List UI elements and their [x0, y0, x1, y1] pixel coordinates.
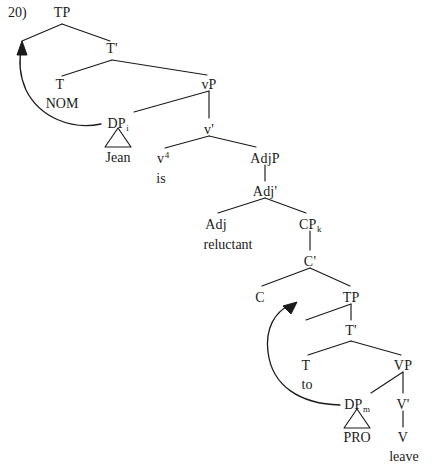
node-vbar: v': [204, 123, 214, 137]
node-label-text: v: [157, 151, 164, 166]
node-label-text: reluctant: [204, 237, 253, 252]
node-label-text: PRO: [343, 430, 370, 445]
node-label-text: CP: [299, 217, 317, 232]
tbar-embedded-to-vp: [351, 341, 401, 355]
node-label-text: is: [156, 171, 165, 186]
adjbar-to-cpk: [265, 198, 306, 213]
node-label-text: Jean: [106, 150, 131, 165]
node-label-text: T': [345, 323, 356, 338]
node-tp-root: TP: [54, 6, 71, 20]
node-label-text: leave: [389, 449, 419, 464]
vp-lower-to-dp: [371, 372, 403, 393]
tp-to-spec: [22, 24, 62, 41]
node-label-text: C: [255, 290, 265, 305]
node-c-head: C: [255, 291, 265, 305]
node-label-text: VP: [394, 358, 412, 373]
tp-embedded-to-spec: [306, 304, 351, 320]
node-label-text: C': [304, 254, 316, 269]
node-label-text: Adj': [253, 184, 277, 199]
node-tbar-main: T': [106, 42, 117, 56]
node-t-main-feature: NOM: [46, 97, 79, 111]
vbar-to-adjp: [209, 136, 256, 147]
tbar-to-t: [62, 60, 112, 76]
node-little-v-word: is: [156, 172, 165, 186]
node-adjp: AdjP: [250, 152, 280, 166]
node-dp-m: DPm: [344, 398, 370, 412]
node-label-text: DP: [344, 397, 362, 412]
tree-lines-svg: [0, 0, 434, 464]
node-vbar-lower: V': [396, 398, 409, 412]
node-t-embedded-word: to: [302, 378, 313, 392]
vp-to-dp: [134, 91, 209, 112]
example-number: 20): [8, 6, 27, 20]
syntax-tree-figure: 20) TPT'TNOMvPDPiJeanv'v4isAdjPAdj'Adjre…: [0, 0, 434, 464]
vbar-to-v: [165, 136, 209, 148]
node-vp: vP: [201, 78, 216, 92]
node-dp-i: DPi: [108, 117, 129, 131]
phrase-triangles: [105, 128, 370, 428]
node-t-main: T: [56, 78, 65, 92]
node-cbar: C': [304, 255, 316, 269]
cbar-to-c: [262, 268, 310, 286]
upper-arrow-head: [17, 41, 27, 55]
node-label-text: vP: [201, 77, 216, 92]
node-v-lower-word: leave: [389, 450, 419, 464]
node-label-text: T: [56, 77, 65, 92]
node-label-text: DP: [108, 116, 126, 131]
node-label-text: to: [302, 377, 313, 392]
node-label-text: TP: [54, 5, 71, 20]
tbar-embedded-to-t: [308, 341, 351, 355]
node-index-subscript: i: [126, 123, 129, 133]
node-vp-lower: VP: [394, 359, 412, 373]
node-label-text: NOM: [46, 96, 79, 111]
node-little-v: v4: [157, 152, 169, 166]
node-dp-i-word: Jean: [106, 151, 131, 165]
node-label-text: V: [398, 430, 408, 445]
node-dp-m-word: PRO: [343, 431, 370, 445]
node-tbar-embedded: T': [345, 324, 356, 338]
node-label-text: T': [106, 41, 117, 56]
node-index-subscript: k: [317, 224, 322, 234]
node-label-text: V': [396, 397, 409, 412]
tbar-to-vp: [112, 60, 207, 75]
node-t-embedded: T: [302, 359, 311, 373]
node-index-subscript: m: [363, 404, 370, 414]
tp-to-tbar: [62, 24, 110, 41]
node-label-text: T: [302, 358, 311, 373]
node-cp-k: CPk: [299, 218, 321, 232]
node-label-text: TP: [343, 290, 360, 305]
node-v-lower: V: [398, 431, 408, 445]
node-label-text: Adj: [205, 217, 227, 232]
adjbar-to-adj: [218, 198, 265, 213]
node-label-text: v': [204, 122, 214, 137]
node-label-text: AdjP: [250, 151, 280, 166]
cbar-to-tp: [310, 268, 350, 286]
node-superscript: 4: [165, 150, 170, 160]
node-adjbar: Adj': [253, 185, 277, 199]
node-adj-word: reluctant: [204, 238, 253, 252]
node-tp-embedded: TP: [343, 291, 360, 305]
lower-arrow-head: [283, 302, 297, 314]
node-adj: Adj: [205, 218, 227, 232]
